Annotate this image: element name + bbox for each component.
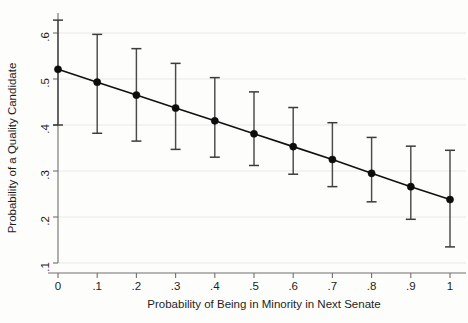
data-point-marker xyxy=(94,79,101,86)
x-tick-label: .9 xyxy=(406,280,416,292)
data-point-marker xyxy=(290,143,297,150)
y-tick-label: .6 xyxy=(39,32,51,42)
y-tick-label: .3 xyxy=(39,170,51,180)
x-tick-label: .3 xyxy=(171,280,181,292)
x-tick-label: .2 xyxy=(132,280,142,292)
x-tick-label: 1 xyxy=(447,280,453,292)
data-markers-group xyxy=(54,66,453,203)
data-point-marker xyxy=(54,66,61,73)
data-point-marker xyxy=(368,170,375,177)
x-tick-label: .6 xyxy=(288,280,298,292)
gridlines-group xyxy=(58,33,466,263)
data-point-marker xyxy=(133,92,140,99)
chart-canvas: .1.2.3.4.5.6 0.1.2.3.4.5.6.7.8.91 Probab… xyxy=(0,0,468,323)
x-tick-label: .4 xyxy=(210,280,220,292)
x-tick-label: .7 xyxy=(328,280,338,292)
data-point-marker xyxy=(329,156,336,163)
x-tick-label: .5 xyxy=(249,280,259,292)
x-axis-ticks-group: 0.1.2.3.4.5.6.7.8.91 xyxy=(55,273,453,292)
y-tick-label: .5 xyxy=(39,78,51,88)
data-point-marker xyxy=(407,183,414,190)
y-tick-label: .2 xyxy=(39,216,51,226)
x-tick-label: .8 xyxy=(367,280,377,292)
x-tick-label: 0 xyxy=(55,280,61,292)
x-axis-title: Probability of Being in Minority in Next… xyxy=(147,298,380,310)
data-point-marker xyxy=(211,117,218,124)
data-point-marker xyxy=(446,196,453,203)
data-point-marker xyxy=(250,130,257,137)
y-tick-label: .1 xyxy=(39,262,51,272)
chart-figure: .1.2.3.4.5.6 0.1.2.3.4.5.6.7.8.91 Probab… xyxy=(0,0,468,323)
y-tick-label: .4 xyxy=(39,124,51,134)
x-tick-label: .1 xyxy=(92,280,102,292)
y-axis-title: Probability of a Quality Candidate xyxy=(6,63,18,234)
data-point-marker xyxy=(172,104,179,111)
